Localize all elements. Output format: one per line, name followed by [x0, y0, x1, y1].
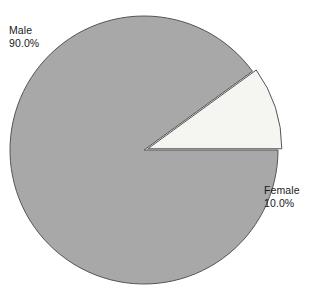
pie-slice-male — [10, 16, 278, 284]
pie-label-female-name: Female — [264, 184, 300, 197]
pie-chart-canvas — [0, 0, 317, 298]
pie-label-female-percent: 10.0% — [264, 197, 300, 210]
pie-label-female: Female 10.0% — [264, 184, 300, 209]
pie-label-male-percent: 90.0% — [9, 37, 39, 50]
pie-label-male: Male 90.0% — [9, 24, 39, 49]
pie-chart: Male 90.0% Female 10.0% — [0, 0, 317, 298]
pie-slices-group — [10, 16, 282, 284]
pie-label-male-name: Male — [9, 24, 39, 37]
